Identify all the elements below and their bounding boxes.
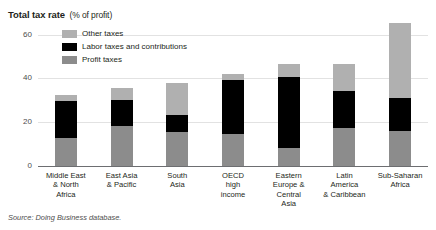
x-label-line: Eastern (276, 171, 302, 180)
legend-label: Labor taxes and contributions (82, 42, 187, 51)
chart-container: Total tax rate (% of profit) 0204060 Mid… (0, 0, 436, 230)
bar-segment-other-taxes (333, 64, 355, 91)
x-label-line: high (226, 180, 240, 189)
bar-east-asia-pacific[interactable] (111, 88, 133, 166)
bar-segment-labor-taxes-and-contributions (222, 80, 244, 133)
x-label-line: Africa (390, 180, 409, 189)
bar-oecd-high-income[interactable] (222, 74, 244, 166)
x-axis-label-4: EasternEurope &CentralAsia (257, 171, 321, 209)
bar-segment-labor-taxes-and-contributions (333, 91, 355, 128)
y-tick-label-0: 0 (2, 161, 32, 170)
legend-labor-taxes[interactable]: Labor taxes and contributions (62, 40, 187, 53)
y-tick-label-60: 60 (2, 30, 32, 39)
legend-profit-taxes[interactable]: Profit taxes (62, 53, 187, 66)
x-label-line: income (221, 190, 245, 199)
x-label-line: & Caribbean (323, 190, 365, 199)
x-label-line: Asia (170, 180, 185, 189)
legend-swatch-icon (62, 43, 77, 51)
chart-legend: Other taxesLabor taxes and contributions… (62, 27, 187, 66)
x-label-line: Latin (336, 171, 352, 180)
x-label-line: Sub-Saharan (378, 171, 423, 180)
legend-other-taxes[interactable]: Other taxes (62, 27, 187, 40)
bar-segment-labor-taxes-and-contributions (278, 77, 300, 148)
x-axis-label-2: SouthAsia (145, 171, 209, 190)
x-axis-label-6: Sub-SaharanAfrica (368, 171, 432, 190)
x-label-line: Middle East (46, 171, 86, 180)
x-label-line: East Asia (106, 171, 138, 180)
bar-segment-profit-taxes (111, 126, 133, 166)
x-axis-line (38, 166, 428, 167)
bar-segment-other-taxes (111, 88, 133, 100)
bar-segment-profit-taxes (55, 138, 77, 166)
bar-segment-profit-taxes (389, 131, 411, 166)
y-tick-label-20: 20 (2, 117, 32, 126)
legend-swatch-icon (62, 56, 77, 64)
bar-middle-east-north-africa[interactable] (55, 95, 77, 166)
bar-sub-saharan-africa[interactable] (389, 23, 411, 166)
x-label-line: Europe & (273, 180, 305, 189)
x-axis-label-0: Middle East& NorthAfrica (34, 171, 98, 199)
x-axis-label-1: East Asia& Pacific (90, 171, 154, 190)
x-label-line: & Pacific (107, 180, 137, 189)
bar-segment-other-taxes (166, 83, 188, 114)
bar-segment-profit-taxes (166, 132, 188, 166)
bar-segment-other-taxes (278, 64, 300, 77)
y-tick-label-40: 40 (2, 73, 32, 82)
x-label-line: Central (276, 190, 300, 199)
bar-segment-other-taxes (222, 74, 244, 81)
x-axis-category-labels: Middle East& NorthAfricaEast Asia& Pacif… (38, 171, 428, 211)
x-axis-label-5: LatinAmerica& Caribbean (312, 171, 376, 199)
bar-segment-profit-taxes (222, 134, 244, 166)
x-label-line: & North (53, 180, 79, 189)
bar-segment-profit-taxes (333, 128, 355, 166)
x-label-line: Africa (56, 190, 75, 199)
x-label-line: South (167, 171, 187, 180)
bar-segment-labor-taxes-and-contributions (166, 115, 188, 132)
x-label-line: America (330, 180, 358, 189)
bar-segment-profit-taxes (278, 148, 300, 166)
bar-segment-labor-taxes-and-contributions (389, 98, 411, 130)
bar-latin-america-caribbean[interactable] (333, 64, 355, 166)
legend-swatch-icon (62, 30, 77, 38)
legend-label: Other taxes (82, 29, 123, 38)
source-note: Source: Doing Business database. (8, 213, 121, 222)
bar-segment-labor-taxes-and-contributions (55, 101, 77, 138)
x-label-line: Asia (281, 199, 296, 208)
x-label-line: OECD (222, 171, 244, 180)
legend-label: Profit taxes (82, 55, 122, 64)
bar-segment-labor-taxes-and-contributions (111, 100, 133, 126)
bar-eastern-europe-central-asia[interactable] (278, 64, 300, 166)
x-axis-label-3: OECDhighincome (201, 171, 265, 199)
bar-south-asia[interactable] (166, 83, 188, 166)
bar-segment-other-taxes (389, 23, 411, 98)
